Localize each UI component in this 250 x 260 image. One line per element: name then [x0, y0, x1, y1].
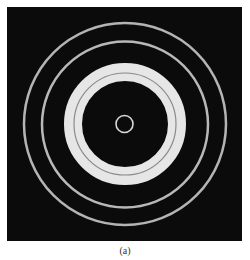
inner-small-ring: [116, 116, 133, 133]
ring-pattern: [0, 0, 250, 260]
wide-ring-dark-line: [74, 73, 176, 175]
figure-caption: (a): [0, 245, 250, 256]
outer-ring: [24, 23, 226, 225]
